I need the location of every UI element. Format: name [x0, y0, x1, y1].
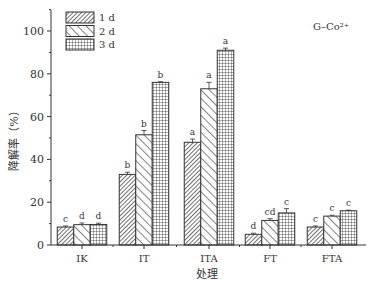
legend-label: 1 d	[99, 12, 116, 23]
bar	[90, 224, 107, 245]
y-tick-label: 80	[30, 68, 44, 81]
legend-swatch	[66, 26, 94, 37]
significance-letter: d	[251, 221, 257, 231]
bar	[184, 142, 201, 245]
significance-letter: d	[79, 211, 85, 221]
y-tick-label: 60	[30, 111, 44, 124]
x-tick-label: IT	[139, 253, 150, 264]
bar-group-fta: ccc	[307, 198, 357, 245]
bar	[152, 82, 169, 245]
bar	[201, 89, 218, 245]
legend: 1 d2 d3 d	[66, 12, 116, 50]
bar-group-ik: cdd	[57, 211, 107, 245]
bar	[324, 216, 341, 245]
bar	[340, 211, 357, 245]
significance-letter: c	[346, 198, 351, 208]
legend-label: 2 d	[99, 26, 116, 37]
bar	[262, 220, 279, 245]
y-axis-label: 降解率（%）	[7, 105, 21, 170]
bars-layer: cddbbbaaadcdcccc	[57, 36, 357, 245]
bar	[74, 225, 91, 245]
bar	[307, 227, 324, 245]
y-tick-label: 20	[30, 196, 44, 209]
significance-letter: d	[96, 211, 102, 221]
significance-letter: c	[63, 214, 68, 224]
bar-group-ita: aaa	[184, 36, 234, 245]
bar	[57, 227, 74, 245]
significance-letter: c	[313, 214, 318, 224]
bar	[119, 174, 136, 245]
x-tick-label: IK	[76, 253, 88, 264]
legend-label: 3 d	[99, 39, 116, 50]
significance-letter: b	[141, 119, 147, 129]
significance-letter: a	[223, 36, 229, 46]
significance-letter: b	[158, 70, 164, 80]
significance-letter: a	[206, 70, 212, 80]
bar	[245, 234, 262, 245]
bar	[217, 50, 234, 245]
significance-letter: a	[190, 127, 196, 137]
x-tick-label: FT	[263, 253, 277, 264]
chart-annotation: G–Co²⁺	[313, 21, 349, 32]
bar-chart: cddbbbaaadcdcccc 020406080100IKITITAFTFT…	[0, 0, 372, 287]
y-tick-label: 40	[30, 153, 44, 166]
significance-letter: b	[125, 160, 131, 170]
y-tick-label: 0	[37, 239, 44, 252]
x-tick-label: FTA	[322, 253, 343, 264]
legend-swatch	[66, 12, 94, 23]
significance-letter: cd	[265, 207, 276, 217]
legend-swatch	[66, 39, 94, 50]
x-tick-label: ITA	[200, 253, 218, 264]
significance-letter: c	[329, 203, 334, 213]
bar-group-it: bbb	[119, 70, 169, 245]
y-tick-label: 100	[23, 25, 44, 38]
bar	[136, 135, 153, 245]
significance-letter: c	[284, 197, 289, 207]
bar-group-ft: dcdc	[245, 197, 295, 245]
x-axis-label: 处理	[196, 268, 218, 281]
bar	[278, 213, 295, 245]
